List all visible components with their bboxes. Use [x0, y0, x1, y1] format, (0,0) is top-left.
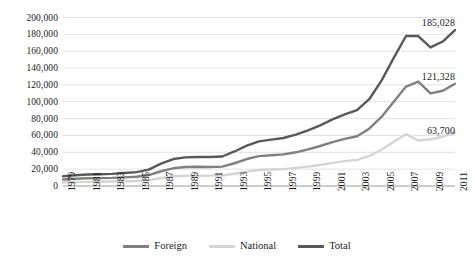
y-tick-label: 20,000 [0, 164, 58, 174]
x-tick-label: 1993 [239, 172, 249, 191]
x-tick-label: 1979 [67, 172, 77, 191]
series-line-total [63, 30, 455, 176]
plot-area [0, 0, 474, 271]
y-tick-label: 200,000 [0, 13, 58, 23]
gridlines [63, 18, 455, 170]
x-tick-label: 2003 [361, 172, 371, 191]
legend-label: National [240, 240, 276, 252]
y-tick-label: 100,000 [0, 97, 58, 107]
x-tick-label: 1991 [214, 172, 224, 191]
y-tick-label: 40,000 [0, 147, 58, 157]
legend-item-total[interactable]: Total [298, 240, 350, 252]
data-point-label: 121,328 [407, 71, 455, 82]
x-tick-label: 1985 [141, 172, 151, 191]
series-line-foreign [63, 82, 455, 180]
y-tick-label: 160,000 [0, 46, 58, 56]
y-tick-label: 60,000 [0, 130, 58, 140]
x-tick-label: 2001 [337, 172, 347, 191]
legend-swatch-icon [298, 245, 324, 248]
x-tick-label: 2011 [459, 172, 469, 191]
legend-item-national[interactable]: National [209, 240, 276, 252]
x-tick-label: 1997 [288, 172, 298, 191]
y-tick-label: 0 [0, 181, 58, 191]
x-tick-label: 1983 [116, 172, 126, 191]
data-point-label: 63,700 [407, 125, 455, 136]
x-tick-label: 1987 [165, 172, 175, 191]
legend-label: Total [329, 240, 350, 252]
x-tick-label: 2007 [410, 172, 420, 191]
y-tick-label: 180,000 [0, 29, 58, 39]
y-tick-label: 120,000 [0, 80, 58, 90]
legend-item-foreign[interactable]: Foreign [123, 240, 187, 252]
x-tick-label: 1989 [190, 172, 200, 191]
legend-swatch-icon [123, 245, 149, 248]
chart-legend: ForeignNationalTotal [0, 240, 474, 252]
x-tick-label: 1999 [312, 172, 322, 191]
x-tick-label: 2005 [386, 172, 396, 191]
x-tick-label: 1995 [263, 172, 273, 191]
y-tick-label: 80,000 [0, 114, 58, 124]
x-tick-label: 2009 [435, 172, 445, 191]
legend-label: Foreign [154, 240, 187, 252]
y-tick-label: 140,000 [0, 63, 58, 73]
data-point-label: 185,028 [407, 17, 455, 28]
data-series [63, 30, 455, 182]
legend-swatch-icon [209, 245, 235, 248]
x-tick-label: 1981 [92, 172, 102, 191]
line-chart: 020,00040,00060,00080,000100,000120,0001… [0, 0, 474, 271]
